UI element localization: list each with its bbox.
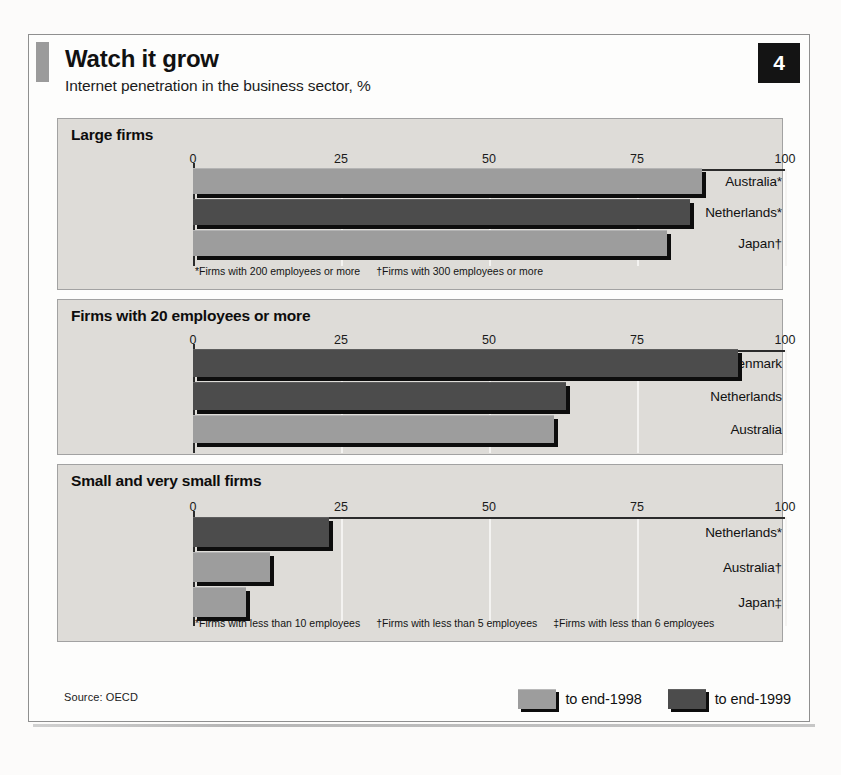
axis-tick-label: 100 (775, 500, 796, 514)
panel-footnote: †Firms with 300 employees or more (376, 265, 543, 277)
figure-frame-shadow (33, 724, 815, 727)
legend-item-1999: to end-1999 (668, 689, 791, 709)
axis-tick-label: 25 (334, 152, 348, 166)
axis-tick-label: 75 (630, 152, 644, 166)
bar (193, 587, 246, 617)
bar (193, 517, 329, 547)
axis-tick-label: 25 (334, 333, 348, 347)
panel-title: Firms with 20 employees or more (71, 307, 310, 325)
gridline (637, 517, 639, 626)
axis-tick-label: 50 (482, 500, 496, 514)
figure-number-badge: 4 (758, 43, 800, 83)
panel-footnotes: *Firms with 200 employees or more†Firms … (195, 265, 543, 277)
gridline (341, 517, 343, 626)
legend-swatch-light-icon (518, 689, 556, 709)
figure-subtitle: Internet penetration in the business sec… (65, 77, 371, 95)
bar (193, 230, 667, 256)
gridline (489, 517, 491, 626)
bar-row-label: Australia (659, 422, 782, 437)
bar-row-label: Japan‡ (659, 595, 782, 610)
panel-title: Large firms (71, 126, 153, 144)
panel-footnote: *Firms with 200 employees or more (195, 265, 360, 277)
gridline (785, 350, 787, 453)
legend-label: to end-1998 (565, 691, 641, 707)
title-accent-bar (36, 42, 49, 82)
bar (193, 415, 554, 443)
panel-firms-20-plus: Firms with 20 employees or more 02550751… (57, 299, 783, 455)
panel-large-firms: Large firms 0255075100Australia*Netherla… (57, 118, 783, 290)
bar (193, 168, 702, 194)
bar-row-label: Netherlands* (659, 525, 782, 540)
axis-tick-label: 25 (334, 500, 348, 514)
bar (193, 552, 270, 582)
legend-label: to end-1999 (715, 691, 791, 707)
axis-tick-label: 50 (482, 152, 496, 166)
panel-title: Small and very small firms (71, 472, 261, 490)
axis-tick-label: 100 (775, 333, 796, 347)
gridline (785, 517, 787, 626)
legend-swatch-dark-icon (668, 689, 706, 709)
axis-tick-label: 50 (482, 333, 496, 347)
panel-footnote: †Firms with less than 5 employees (376, 617, 537, 629)
panel-footnote: ‡Firms with less than 6 employees (553, 617, 714, 629)
panel-small-firms: Small and very small firms 0255075100Net… (57, 464, 783, 642)
panel-footnote: *Firms with less than 10 employees (195, 617, 360, 629)
axis-tick-label: 75 (630, 333, 644, 347)
bar (193, 382, 566, 410)
bar (193, 349, 738, 377)
bar-row-label: Netherlands (659, 389, 782, 404)
page-canvas: Watch it grow Internet penetration in th… (0, 0, 841, 775)
gridline (785, 169, 787, 266)
axis-tick-label: 100 (775, 152, 796, 166)
bar-row-label: Australia† (659, 560, 782, 575)
bar (193, 199, 690, 225)
panel-footnotes: *Firms with less than 10 employees†Firms… (195, 617, 714, 629)
legend-item-1998: to end-1998 (518, 689, 641, 709)
figure-container: Watch it grow Internet penetration in th… (28, 34, 810, 722)
bar-row-label: Japan† (659, 236, 782, 251)
figure-title: Watch it grow (65, 45, 219, 73)
chart-legend: to end-1998 to end-1999 (518, 689, 791, 709)
source-note: Source: OECD (64, 691, 138, 703)
axis-tick-label: 75 (630, 500, 644, 514)
